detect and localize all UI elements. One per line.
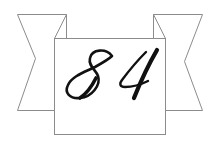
ribbon-banner-icon xyxy=(0,0,214,144)
ribbon-banner-emblem: 84 xyxy=(0,0,214,144)
